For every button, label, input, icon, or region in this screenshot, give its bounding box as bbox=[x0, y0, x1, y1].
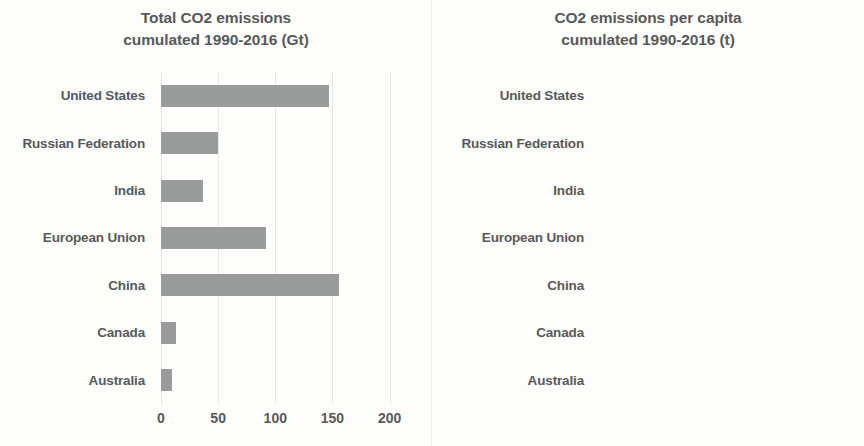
category-label-india: India bbox=[0, 167, 153, 214]
category-label-russian-federation: Russian Federation bbox=[432, 119, 592, 166]
bar-india[interactable] bbox=[161, 180, 203, 202]
bar-row bbox=[161, 119, 401, 166]
bar-australia[interactable] bbox=[161, 369, 172, 391]
bar-row bbox=[161, 214, 401, 261]
category-label-australia: Australia bbox=[0, 357, 153, 404]
left-chart-title: Total CO2 emissions cumulated 1990-2016 … bbox=[0, 7, 432, 51]
bar-row bbox=[161, 167, 401, 214]
left-chart-title-line1: Total CO2 emissions bbox=[0, 7, 432, 29]
bar-china[interactable] bbox=[161, 274, 339, 296]
bar-row bbox=[161, 357, 401, 404]
category-label-united-states: United States bbox=[432, 72, 592, 119]
category-label-european-union: European Union bbox=[0, 214, 153, 261]
bar-row bbox=[161, 309, 401, 356]
bar-canada[interactable] bbox=[161, 322, 176, 344]
category-label-china: China bbox=[0, 262, 153, 309]
category-label-russian-federation: Russian Federation bbox=[0, 119, 153, 166]
bar-row bbox=[161, 72, 401, 119]
left-chart-tick-label-100: 100 bbox=[264, 410, 287, 426]
bar-russian-federation[interactable] bbox=[161, 132, 218, 154]
left-chart-tick-label-50: 50 bbox=[210, 410, 226, 426]
right-chart-title: CO2 emissions per capita cumulated 1990-… bbox=[432, 7, 864, 51]
bar-european-union[interactable] bbox=[161, 227, 266, 249]
right-chart-category-axis: United StatesRussian FederationIndiaEuro… bbox=[432, 72, 592, 404]
chart-page: Total CO2 emissions cumulated 1990-2016 … bbox=[0, 0, 864, 446]
total-co2-emissions-chart: Total CO2 emissions cumulated 1990-2016 … bbox=[0, 0, 432, 446]
left-chart-tick-label-200: 200 bbox=[378, 410, 401, 426]
category-label-european-union: European Union bbox=[432, 214, 592, 261]
left-chart-plot-area bbox=[161, 72, 401, 404]
category-label-united-states: United States bbox=[0, 72, 153, 119]
left-chart-value-axis: 050100150200 bbox=[161, 410, 401, 432]
left-chart-bars bbox=[161, 72, 401, 404]
category-label-australia: Australia bbox=[432, 357, 592, 404]
category-label-china: China bbox=[432, 262, 592, 309]
right-chart-title-line1: CO2 emissions per capita bbox=[432, 7, 864, 29]
category-label-canada: Canada bbox=[0, 309, 153, 356]
right-chart-title-line2: cumulated 1990-2016 (t) bbox=[432, 29, 864, 51]
bar-united-states[interactable] bbox=[161, 85, 329, 107]
left-chart-tick-label-150: 150 bbox=[321, 410, 344, 426]
left-chart-title-line2: cumulated 1990-2016 (Gt) bbox=[0, 29, 432, 51]
left-chart-category-axis: United StatesRussian FederationIndiaEuro… bbox=[0, 72, 153, 404]
bar-row bbox=[161, 262, 401, 309]
category-label-india: India bbox=[432, 167, 592, 214]
left-chart-tick-label-0: 0 bbox=[157, 410, 165, 426]
category-label-canada: Canada bbox=[432, 309, 592, 356]
